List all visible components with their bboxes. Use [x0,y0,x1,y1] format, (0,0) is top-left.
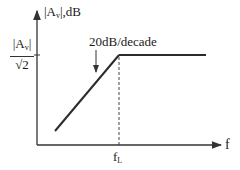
x-axis-label: f [225,138,230,152]
slope-annotation-label: 20dB/decade [89,35,157,48]
plot-canvas [0,0,240,170]
y-tick-denominator: √2 [10,57,34,72]
bode-plot-diagram: |Av|,dB |Av| √2 20dB/decade fL f [0,0,240,170]
y-tick-numerator: |Av| [10,37,34,57]
y-tick-label: |Av| √2 [10,37,34,72]
corner-frequency-label: fL [113,150,122,165]
rising-asymptote-line [55,55,119,131]
y-axis-label: |Av|,dB [44,5,81,20]
